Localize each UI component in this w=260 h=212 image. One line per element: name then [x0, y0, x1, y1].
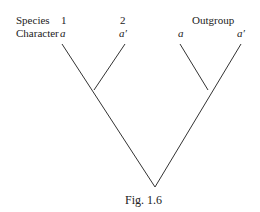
branch-species-1 [62, 44, 155, 187]
branch-species-2 [94, 44, 125, 90]
branch-outgroup-1 [180, 44, 208, 90]
branch-outgroup-2 [155, 44, 241, 187]
figure-caption: Fig. 1.6 [125, 194, 162, 206]
cladogram [0, 0, 260, 212]
